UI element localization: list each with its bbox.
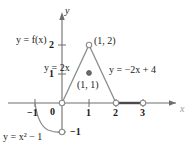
tick-label-y-neg1: −1 xyxy=(70,127,81,137)
tick-label-x-0: 0 xyxy=(50,107,55,117)
open-circle-x3 xyxy=(140,100,145,105)
tick-label-x-neg1: −1 xyxy=(27,108,38,118)
y-axis-arrowhead xyxy=(59,12,64,20)
label-point-value: (1, 1) xyxy=(77,80,99,90)
label-point-peak: (1, 2) xyxy=(94,36,116,46)
open-circle-neg1 xyxy=(59,129,64,134)
tick-label-y-1: 1 xyxy=(49,69,54,79)
tick-label-x-1: 1 xyxy=(86,108,91,118)
tick-label-x-2: 2 xyxy=(113,108,118,118)
label-equation-line-down: y = −2x + 4 xyxy=(109,65,156,75)
open-circle-origin xyxy=(59,100,64,105)
open-circle-peak xyxy=(86,42,91,47)
label-axis-x: x xyxy=(180,104,184,114)
x-axis xyxy=(8,100,176,105)
tick-label-x-3: 3 xyxy=(140,108,145,118)
label-equation-parabola: y = x² − 1 xyxy=(3,132,42,142)
label-function-name: y = f(x) xyxy=(16,35,47,45)
label-equation-line-up: y = 2x xyxy=(44,63,70,73)
piecewise-function-figure: y = f(x) y = 2x y = −2x + 4 y = x² − 1 (… xyxy=(0,0,190,152)
graph-canvas xyxy=(0,0,190,152)
curve-line-up xyxy=(62,45,89,103)
open-circle-x2 xyxy=(113,100,118,105)
x-axis-arrowhead xyxy=(169,100,176,105)
label-axis-y: y xyxy=(65,6,69,16)
curve-parabola xyxy=(35,103,62,132)
filled-dot-value xyxy=(87,71,92,76)
tick-label-y-2: 2 xyxy=(49,40,54,50)
